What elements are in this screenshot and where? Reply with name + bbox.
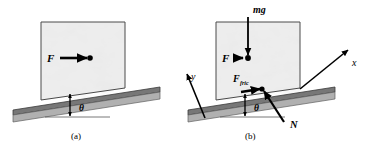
panel-b-caption: (b) xyxy=(245,131,256,141)
friction-force-label: F xyxy=(232,73,240,84)
x-axis-label: x xyxy=(351,57,357,68)
y-axis-label: y xyxy=(190,71,196,82)
center-of-mass-dot-b xyxy=(245,55,251,61)
applied-force-label-b: F xyxy=(221,52,230,64)
applied-force-label-a: F xyxy=(46,52,55,64)
panel-a-caption: (a) xyxy=(71,131,81,141)
figure-canvas: θ F (a) θ mg F F fric xyxy=(0,0,369,146)
weight-label: mg xyxy=(253,4,266,15)
angle-label-a: θ xyxy=(79,103,84,113)
normal-force-label: N xyxy=(289,119,298,130)
center-of-mass-dot-a xyxy=(87,55,93,61)
friction-force-subscript: fric xyxy=(240,80,249,86)
angle-label-b: θ xyxy=(254,103,259,113)
contact-point-dot xyxy=(259,86,264,91)
